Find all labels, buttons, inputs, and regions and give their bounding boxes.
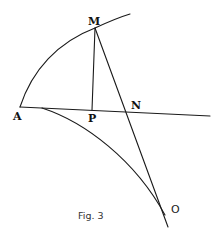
figure-caption: Fig. 3 bbox=[78, 210, 104, 221]
lower-curve bbox=[42, 108, 165, 215]
segment-MP bbox=[92, 28, 95, 110]
baseline-AN bbox=[20, 107, 210, 116]
line-MNO bbox=[95, 28, 168, 227]
label-A: A bbox=[12, 110, 22, 123]
label-N: N bbox=[131, 99, 141, 112]
upper-arc bbox=[20, 14, 130, 107]
label-O: O bbox=[171, 203, 180, 216]
label-M: M bbox=[88, 15, 100, 28]
label-P: P bbox=[88, 112, 96, 125]
geometry-figure: M A P N O Fig. 3 bbox=[0, 0, 216, 234]
